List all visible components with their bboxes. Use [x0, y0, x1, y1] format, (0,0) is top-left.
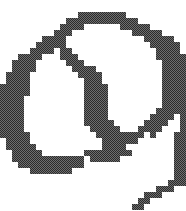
bitmap-glyph-container [0, 0, 186, 211]
spiral-glyph-bitmap [0, 0, 186, 211]
